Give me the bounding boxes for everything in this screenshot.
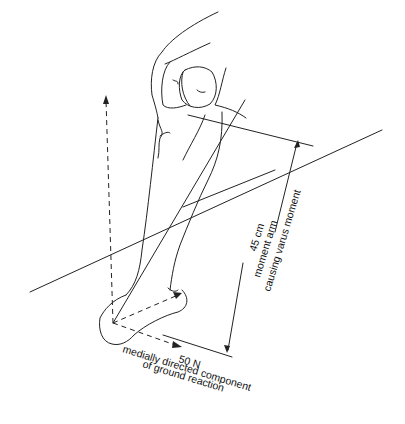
knee-notch [173, 80, 178, 84]
thigh-inner-outline [165, 43, 210, 64]
patella-outline [179, 67, 216, 108]
medial-force-arrowhead [172, 341, 182, 348]
tibia-shaft-line [183, 115, 205, 160]
tibia-axis-line [113, 100, 245, 323]
diagram-canvas: 50 N medially directed component of grou… [0, 0, 405, 424]
vertical-force-vector [106, 100, 113, 323]
tibia-medial-border [126, 118, 158, 295]
condyle-detail [197, 90, 205, 92]
foot-outline [100, 290, 187, 345]
ground-reaction-line [30, 130, 382, 292]
ankle-detail [168, 288, 178, 291]
tibia-lateral-border [170, 112, 222, 290]
resultant-force-vector [113, 295, 178, 323]
arrowhead-bottom [224, 345, 230, 353]
moment-arm-dimension-lower [228, 263, 243, 350]
vertical-force-arrowhead [103, 95, 109, 104]
knee-lateral-outline [215, 68, 246, 118]
knee-reference-line [188, 115, 313, 146]
resultant-force-arrowhead [173, 292, 182, 299]
fibula-head [158, 120, 162, 158]
fibula-detail [160, 132, 170, 136]
diagonal-to-tibia-line [183, 170, 275, 207]
thigh-outline [151, 12, 218, 118]
